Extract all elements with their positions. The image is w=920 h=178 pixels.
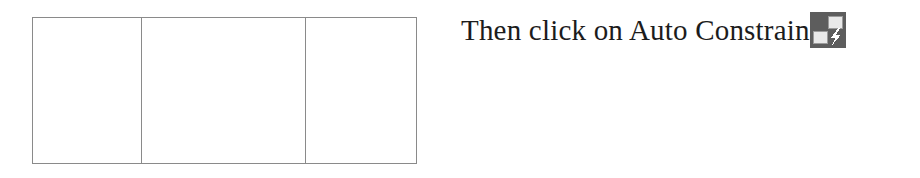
auto-constrain-icon[interactable] — [810, 12, 848, 48]
table-cell — [141, 18, 305, 163]
instruction-line: Then click on Auto Constrain — [461, 12, 848, 48]
instruction-text: Then click on Auto Constrain — [461, 12, 810, 48]
empty-table-figure — [32, 17, 417, 164]
table-cell — [305, 18, 416, 163]
table-cell — [33, 18, 141, 163]
